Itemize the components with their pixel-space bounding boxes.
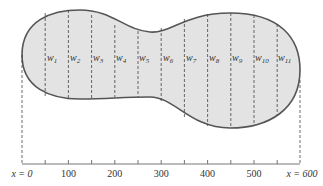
x-axis-ticks xyxy=(45,160,277,164)
tick-label-200: 200 xyxy=(107,168,122,179)
figure-canvas: w1 w2 w3 w4 w5 w6 w7 w8 w9 w10 w11 x = 0… xyxy=(0,0,323,186)
axis-end-label: x = 600 xyxy=(285,168,317,179)
tick-label-400: 400 xyxy=(200,168,215,179)
axis-start-label: x = 0 xyxy=(10,168,32,179)
tick-label-300: 300 xyxy=(154,168,169,179)
tick-label-100: 100 xyxy=(61,168,76,179)
tick-label-500: 500 xyxy=(247,168,262,179)
